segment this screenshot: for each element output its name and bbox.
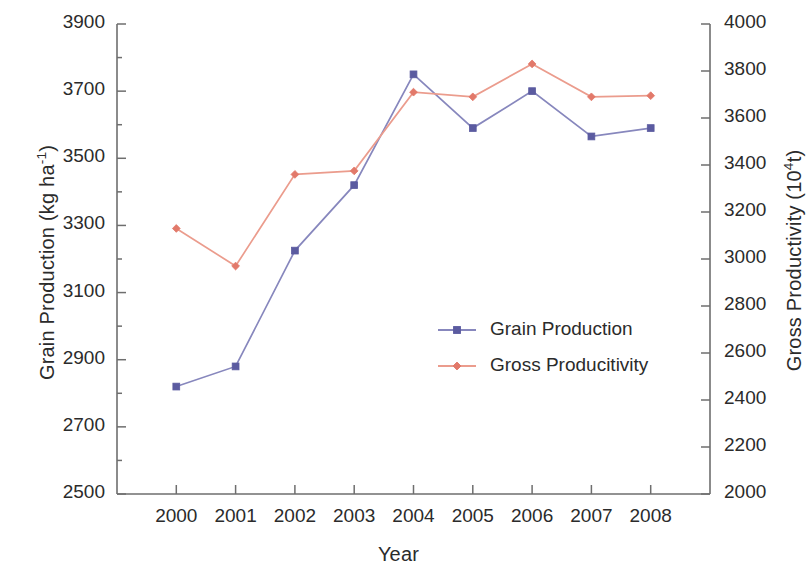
- legend-marker: [453, 362, 461, 370]
- data-point-marker: [410, 71, 417, 78]
- y-axis-left-tick-label: 3900: [25, 11, 105, 33]
- y-axis-right-tick-label: 3200: [724, 199, 804, 221]
- y-axis-left-tick-label: 2700: [25, 414, 105, 436]
- y-axis-left-tick-label: 2500: [25, 481, 105, 503]
- legend-swatch: [436, 357, 478, 375]
- y-axis-left-tick-label: 3100: [25, 280, 105, 302]
- data-point-marker: [528, 60, 536, 68]
- legend-label: Grain Production: [490, 318, 633, 340]
- data-series-layer: [172, 60, 654, 390]
- y-axis-right-tick-label: 3000: [724, 246, 804, 268]
- data-point-marker: [588, 93, 596, 101]
- y-axis-right-tick-label: 3600: [724, 105, 804, 127]
- series-grain-production: [173, 71, 654, 390]
- series-gross-productivity: [172, 60, 654, 270]
- legend-label: Gross Producitivity: [490, 354, 648, 376]
- y-axis-right-tick-label: 2200: [724, 434, 804, 456]
- x-axis-tick-label: 2008: [616, 505, 686, 527]
- y-axis-left-tick-label: 3700: [25, 78, 105, 100]
- legend-swatch: [436, 321, 478, 339]
- data-point-marker: [292, 247, 299, 254]
- data-point-marker: [647, 92, 655, 100]
- y-axis-left-title: Grain Production (kg ha-1): [36, 53, 59, 473]
- x-axis-title: Year: [0, 543, 797, 566]
- data-point-marker: [469, 93, 477, 101]
- data-point-marker: [647, 125, 654, 132]
- data-point-marker: [588, 133, 595, 140]
- y-axis-left-tick-label: 3500: [25, 145, 105, 167]
- y-axis-right-tick-label: 2800: [724, 293, 804, 315]
- y-axis-right-tick-label: 3400: [724, 152, 804, 174]
- data-point-marker: [469, 125, 476, 132]
- y-axis-left-tick-label: 2900: [25, 347, 105, 369]
- data-point-marker: [232, 363, 239, 370]
- y-axis-right-tick-label: 2600: [724, 340, 804, 362]
- data-point-marker: [529, 88, 536, 95]
- y-axis-right-tick-label: 4000: [724, 11, 804, 33]
- y-axis-left-ticks: [117, 24, 126, 494]
- legend-marker: [454, 327, 461, 334]
- y-axis-right-tick-label: 2000: [724, 481, 804, 503]
- y-axis-right-tick-label: 3800: [724, 58, 804, 80]
- y-axis-left-tick-label: 3300: [25, 212, 105, 234]
- data-point-marker: [351, 182, 358, 189]
- data-point-marker: [173, 383, 180, 390]
- y-axis-right-ticks: [701, 24, 710, 494]
- x-axis-ticks: [176, 485, 650, 494]
- y-axis-right-tick-label: 2400: [724, 387, 804, 409]
